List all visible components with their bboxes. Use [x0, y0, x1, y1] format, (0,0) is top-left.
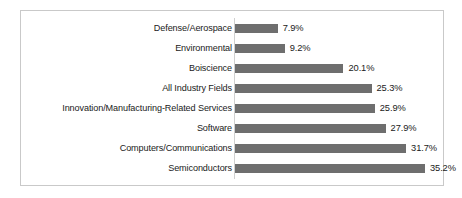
- bar-container: 25.3%: [235, 78, 402, 98]
- value-label: 25.3%: [377, 83, 403, 93]
- value-label: 20.1%: [348, 63, 374, 73]
- bar[interactable]: [235, 104, 375, 113]
- category-label: Semiconductors: [32, 163, 232, 173]
- category-label: Environmental: [32, 43, 232, 53]
- bar-container: 20.1%: [235, 58, 374, 78]
- bar-row[interactable]: Defense/Aerospace 7.9%: [21, 18, 443, 38]
- value-label: 27.9%: [391, 123, 417, 133]
- value-label: 7.9%: [283, 23, 304, 33]
- bar[interactable]: [235, 24, 278, 33]
- bar-row[interactable]: All Industry Fields 25.3%: [21, 78, 443, 98]
- value-label: 31.7%: [411, 143, 437, 153]
- bar[interactable]: [235, 124, 386, 133]
- bar-row[interactable]: Boiscience 20.1%: [21, 58, 443, 78]
- bar[interactable]: [235, 84, 372, 93]
- bar-container: 35.2%: [235, 158, 456, 178]
- bar-container: 25.9%: [235, 98, 406, 118]
- value-label: 35.2%: [430, 163, 456, 173]
- bar-row[interactable]: Software 27.9%: [21, 118, 443, 138]
- bar-row[interactable]: Innovation/Manufacturing-Related Service…: [21, 98, 443, 118]
- bar-container: 9.2%: [235, 38, 310, 58]
- bar-row[interactable]: Computers/Communications 31.7%: [21, 138, 443, 158]
- category-label: Innovation/Manufacturing-Related Service…: [32, 103, 232, 113]
- category-label: All Industry Fields: [32, 83, 232, 93]
- bar-row[interactable]: Semiconductors 35.2%: [21, 158, 443, 178]
- category-label: Boiscience: [32, 63, 232, 73]
- category-label: Defense/Aerospace: [32, 23, 232, 33]
- category-label: Computers/Communications: [32, 143, 232, 153]
- chart-frame: Defense/Aerospace 7.9% Environmental 9.2…: [20, 10, 444, 186]
- category-label: Software: [32, 123, 232, 133]
- bar-row[interactable]: Environmental 9.2%: [21, 38, 443, 58]
- bar-container: 7.9%: [235, 18, 303, 38]
- bar-container: 27.9%: [235, 118, 416, 138]
- bar[interactable]: [235, 164, 425, 173]
- plot-area: Defense/Aerospace 7.9% Environmental 9.2…: [21, 11, 443, 185]
- bar[interactable]: [235, 64, 343, 73]
- bar[interactable]: [235, 144, 406, 153]
- bar[interactable]: [235, 44, 285, 53]
- value-label: 9.2%: [290, 43, 311, 53]
- bar-container: 31.7%: [235, 138, 437, 158]
- value-label: 25.9%: [380, 103, 406, 113]
